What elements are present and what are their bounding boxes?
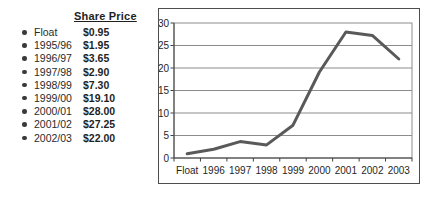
share-price-row: 1998/99$7.30: [0, 79, 158, 92]
y-axis-label: 15: [159, 85, 169, 96]
y-axis-label: 20: [159, 63, 169, 74]
share-price-row: 2001/02$27.25: [0, 118, 158, 131]
period-label: 1995/96: [34, 39, 72, 51]
price-value: $2.90: [83, 66, 109, 78]
period-label: 1998/99: [34, 79, 72, 91]
y-axis-label: 0: [163, 153, 169, 164]
bullet-icon: [22, 70, 27, 75]
share-price-row: 1997/98$2.90: [0, 66, 158, 79]
share-price-row: 2002/03$22.00: [0, 132, 158, 145]
x-axis-label: 1999: [282, 165, 305, 176]
share-price-row: Float$0.95: [0, 26, 158, 39]
y-axis-label: 10: [159, 108, 169, 119]
y-axis-label: 30: [159, 18, 169, 29]
y-axis-label: 25: [159, 40, 169, 51]
bullet-icon: [22, 30, 27, 35]
period-label: 2000/01: [34, 105, 72, 117]
share-price-header: Share Price: [74, 10, 137, 22]
share-price-rows: Float$0.951995/96$1.951996/97$3.651997/9…: [0, 26, 158, 145]
bullet-icon: [22, 83, 27, 88]
bullet-icon: [22, 56, 27, 61]
period-label: 2002/03: [34, 132, 72, 144]
bullet-icon: [22, 136, 27, 141]
price-value: $0.95: [83, 26, 109, 38]
share-price-list: Share Price Float$0.951995/96$1.951996/9…: [0, 0, 158, 197]
bullet-icon: [22, 122, 27, 127]
x-axis-label: Float: [176, 165, 198, 176]
x-axis-label: 2002: [361, 165, 384, 176]
x-axis-label: 2000: [308, 165, 331, 176]
share-price-row: 1999/00$19.10: [0, 92, 158, 105]
bullet-icon: [22, 43, 27, 48]
price-value: $3.65: [83, 52, 109, 64]
price-value: $7.30: [83, 79, 109, 91]
share-price-row: 1995/96$1.95: [0, 39, 158, 52]
x-axis-label: 1996: [203, 165, 226, 176]
price-value: $19.10: [83, 92, 115, 104]
x-axis-label: 1997: [229, 165, 252, 176]
period-label: 1997/98: [34, 66, 72, 78]
share-price-row: 2000/01$28.00: [0, 105, 158, 118]
bullet-icon: [22, 109, 27, 114]
share-price-row: 1996/97$3.65: [0, 52, 158, 65]
x-axis-label: 1998: [255, 165, 278, 176]
x-axis-label: 2001: [335, 165, 358, 176]
bullet-icon: [22, 96, 27, 101]
price-value: $27.25: [83, 118, 115, 130]
price-value: $28.00: [83, 105, 115, 117]
price-value: $22.00: [83, 132, 115, 144]
y-axis-label: 5: [163, 130, 169, 141]
scanned-share-price-slide: Share Price Float$0.951995/96$1.951996/9…: [0, 0, 445, 197]
line-chart-canvas: 051015202530Float19961997199819992000200…: [159, 9, 418, 182]
share-price-chart: 051015202530Float19961997199819992000200…: [158, 8, 420, 184]
x-axis-label: 2003: [388, 165, 411, 176]
period-label: 1999/00: [34, 92, 72, 104]
period-label: 1996/97: [34, 52, 72, 64]
price-value: $1.95: [83, 39, 109, 51]
period-label: Float: [34, 26, 57, 38]
period-label: 2001/02: [34, 118, 72, 130]
